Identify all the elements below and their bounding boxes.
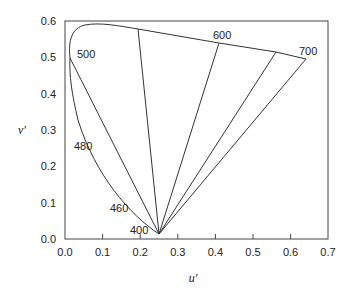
y-tick-4: 0.4 [41, 88, 56, 100]
x-axis-tick-labels: 0.0 0.1 0.2 0.3 0.4 0.5 0.6 0.7 [57, 246, 335, 258]
plot-frame [65, 21, 328, 239]
label-500: 500 [77, 48, 95, 60]
chromaticity-chart: 0.0 0.1 0.2 0.3 0.4 0.5 0.6 0.7 0.0 0.1 … [0, 0, 355, 298]
y-axis-tick-labels: 0.0 0.1 0.2 0.3 0.4 0.5 0.6 [41, 15, 56, 245]
y-tick-2: 0.2 [41, 160, 56, 172]
x-tick-6: 0.6 [283, 246, 298, 258]
label-600: 600 [213, 29, 231, 41]
x-tick-5: 0.5 [245, 246, 260, 258]
purple-line [159, 59, 306, 234]
x-tick-0: 0.0 [57, 246, 72, 258]
y-tick-1: 0.1 [41, 197, 56, 209]
y-axis-title: v' [18, 123, 26, 137]
label-400: 400 [130, 224, 148, 236]
x-tick-2: 0.2 [133, 246, 148, 258]
y-tick-0: 0.0 [41, 233, 56, 245]
x-tick-3: 0.3 [170, 246, 185, 258]
wavelength-labels: 500 600 700 480 460 400 [74, 29, 317, 236]
y-tick-3: 0.3 [41, 124, 56, 136]
x-tick-1: 0.1 [95, 246, 110, 258]
spectrum-locus-top [70, 24, 306, 59]
label-460: 460 [110, 202, 128, 214]
y-tick-6: 0.6 [41, 15, 56, 27]
label-480: 480 [74, 140, 92, 152]
x-axis-title: u' [189, 271, 198, 285]
y-tick-5: 0.5 [41, 51, 56, 63]
x-tick-4: 0.4 [208, 246, 223, 258]
label-700: 700 [299, 45, 317, 57]
x-tick-7: 0.7 [320, 246, 335, 258]
